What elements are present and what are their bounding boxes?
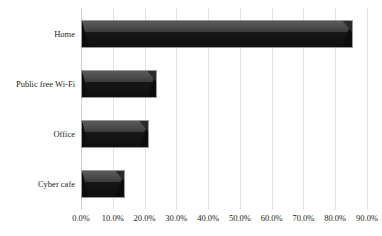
bar-face-top bbox=[82, 71, 156, 82]
category-label: Public free Wi-Fi bbox=[0, 80, 75, 89]
bars-layer bbox=[81, 8, 367, 210]
bar bbox=[81, 120, 149, 148]
x-tick-label: 90.0% bbox=[337, 214, 382, 223]
bar-chart: HomePublic free Wi-FiOfficeCyber cafe 0.… bbox=[0, 0, 382, 236]
category-label: Office bbox=[0, 130, 75, 139]
gridline-90 bbox=[367, 8, 368, 210]
bar-face-top bbox=[82, 21, 352, 32]
category-label: Cyber cafe bbox=[0, 180, 75, 189]
bar bbox=[81, 170, 125, 198]
bar bbox=[81, 20, 353, 48]
bar-face-body bbox=[82, 32, 352, 47]
bar bbox=[81, 70, 157, 98]
bar-face-body bbox=[82, 82, 156, 97]
bar-face-body bbox=[82, 132, 148, 147]
bar-face-top bbox=[82, 121, 148, 132]
x-axis-tick-labels: 0.0%10.0%20.0%30.0%40.0%50.0%60.0%70.0%8… bbox=[0, 214, 382, 232]
category-label: Home bbox=[0, 30, 75, 39]
plot-area bbox=[81, 8, 367, 210]
